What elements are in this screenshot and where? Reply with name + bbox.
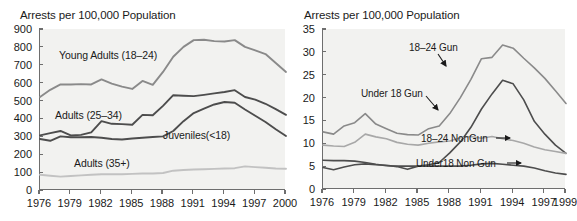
- y-axis-tick-mark: [39, 172, 43, 173]
- y-axis-tick-label: 15: [286, 114, 315, 126]
- x-axis-tick-label: 1999: [553, 196, 577, 208]
- y-axis-tick-label: 35: [286, 23, 315, 35]
- y-axis-tick-mark: [322, 74, 326, 75]
- x-axis-tick-label: 1988: [437, 196, 461, 208]
- series-label-adults-35-plus: Adults (35+): [74, 157, 130, 169]
- x-axis-tick-mark: [321, 189, 322, 193]
- y-axis-tick-mark: [39, 28, 43, 29]
- x-axis-tick-label: 1985: [405, 196, 429, 208]
- annotation-nongun-18-24: 18–24 NonGun: [421, 133, 488, 144]
- y-axis-tick-mark: [39, 64, 43, 65]
- x-axis-tick-mark: [448, 189, 449, 193]
- y-axis-tick-label: 600: [0, 77, 32, 89]
- chart-title-left: Arrests per 100,000 Population: [20, 9, 176, 21]
- series-label-young-adults: Young Adults (18–24): [59, 49, 157, 61]
- x-axis-tick-mark: [131, 190, 132, 194]
- x-axis-tick-mark: [223, 190, 224, 194]
- y-axis-tick-mark: [39, 136, 43, 137]
- y-axis-tick-label: 400: [0, 112, 32, 124]
- y-axis-tick-mark: [39, 118, 43, 119]
- x-axis-tick-mark: [416, 189, 417, 193]
- annotation-gun-under18: Under 18 Gun: [361, 88, 423, 99]
- x-axis-tick-label: 1976: [27, 197, 51, 209]
- x-axis-tick-label: 1994: [211, 197, 235, 209]
- y-axis-tick-mark: [39, 82, 43, 83]
- y-axis-tick-label: 800: [0, 41, 32, 53]
- x-axis-tick-label: 1982: [88, 197, 112, 209]
- chart-panel-arrests-by-age: Arrests per 100,000 Population 010020030…: [0, 0, 286, 221]
- chart-panel-gun-nongun: Arrests per 100,000 Population 051015202…: [286, 0, 571, 221]
- y-axis-tick-label: 100: [0, 166, 32, 178]
- x-axis-tick-mark: [69, 190, 70, 194]
- annotation-nongun-under18: Under18 Non Gun: [416, 158, 496, 169]
- chart-title-right: Arrests per 100,000 Population: [304, 9, 460, 21]
- y-axis-tick-label: 700: [0, 59, 32, 71]
- y-axis-tick-mark: [39, 46, 43, 47]
- x-axis-tick-label: 1994: [500, 196, 524, 208]
- x-axis-tick-mark: [480, 189, 481, 193]
- x-axis-tick-mark: [254, 190, 255, 194]
- y-axis-tick-label: 200: [0, 148, 32, 160]
- data-series-line: [323, 45, 566, 135]
- x-axis-tick-mark: [161, 190, 162, 194]
- data-series-line: [323, 80, 566, 170]
- x-axis-tick-mark: [353, 189, 354, 193]
- y-axis-tick-label: 30: [286, 46, 315, 58]
- y-axis-tick-label: 0: [0, 184, 32, 196]
- y-axis-tick-label: 0: [286, 183, 315, 195]
- y-axis-tick-mark: [39, 100, 43, 101]
- y-axis-tick-mark: [39, 154, 43, 155]
- x-axis-tick-label: 1976: [310, 196, 334, 208]
- y-axis-tick-mark: [322, 143, 326, 144]
- x-axis-tick-mark: [100, 190, 101, 194]
- x-axis-tick-mark: [543, 189, 544, 193]
- series-label-adults-25-34: Adults (25–34): [55, 109, 122, 121]
- y-axis-tick-label: 20: [286, 92, 315, 104]
- x-axis-tick-label: 1997: [242, 197, 266, 209]
- x-axis-tick-mark: [38, 190, 39, 194]
- y-axis-tick-mark: [322, 188, 326, 189]
- x-axis-tick-mark: [512, 189, 513, 193]
- x-axis-tick-label: 1991: [468, 196, 492, 208]
- y-axis-tick-label: 300: [0, 130, 32, 142]
- y-axis-tick-mark: [322, 166, 326, 167]
- y-axis-tick-label: 5: [286, 160, 315, 172]
- x-axis-tick-label: 1985: [119, 197, 143, 209]
- annotation-gun-18-24: 18–24 Gun: [409, 42, 458, 53]
- y-axis-tick-label: 10: [286, 137, 315, 149]
- x-axis-tick-label: 1979: [341, 196, 365, 208]
- y-axis-tick-label: 25: [286, 69, 315, 81]
- x-axis-tick-mark: [192, 190, 193, 194]
- y-axis-tick-mark: [322, 97, 326, 98]
- x-axis-tick-label: 1991: [181, 197, 205, 209]
- y-axis-tick-mark: [39, 189, 43, 190]
- y-axis-tick-label: 500: [0, 95, 32, 107]
- y-axis-tick-mark: [322, 28, 326, 29]
- y-axis-tick-mark: [322, 51, 326, 52]
- y-axis-tick-label: 900: [0, 23, 32, 35]
- x-axis-tick-label: 1988: [150, 197, 174, 209]
- x-axis-tick-label: 1982: [373, 196, 397, 208]
- x-axis-tick-mark: [564, 189, 565, 193]
- x-axis-tick-mark: [385, 189, 386, 193]
- x-axis-tick-label: 1979: [58, 197, 82, 209]
- y-axis-tick-mark: [322, 120, 326, 121]
- series-label-juveniles: Juveniles(<18): [163, 129, 230, 141]
